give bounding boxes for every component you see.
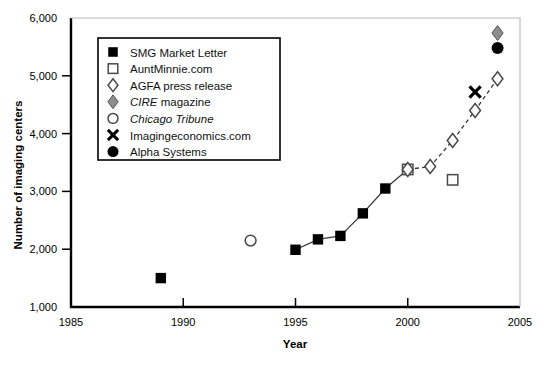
series-line (408, 79, 498, 170)
legend-label: Imagingeconomics.com (130, 130, 251, 142)
legend-marker-filled-square (108, 47, 118, 57)
series-lines (296, 79, 498, 250)
imaging-centers-scatter-chart: 1,0002,0003,0004,0005,0006,000 198519901… (0, 0, 555, 367)
y-axis-ticks (62, 76, 71, 249)
series-line (296, 169, 408, 249)
data-point-filled-square (335, 231, 345, 241)
data-point-cross-x (470, 86, 481, 97)
chart-legend: SMG Market LetterAuntMinnie.comAGFA pres… (98, 38, 280, 160)
data-point-filled-square (313, 234, 323, 244)
y-tick-label: 4,000 (29, 128, 57, 140)
x-axis-title: Year (283, 338, 308, 350)
data-point-filled-square (290, 245, 300, 255)
data-point-filled-circle (492, 42, 504, 54)
data-point-open-diamond (492, 72, 503, 86)
x-tick-label: 1990 (171, 316, 195, 328)
legend-label: AuntMinnie.com (130, 63, 212, 75)
data-point-filled-square (358, 208, 368, 218)
y-tick-label: 3,000 (29, 185, 57, 197)
y-axis-tick-labels: 1,0002,0003,0004,0005,0006,000 (29, 12, 57, 313)
data-point-open-circle (245, 235, 256, 246)
data-point-gray-diamond (492, 26, 503, 41)
legend-label: Alpha Systems (130, 146, 207, 158)
legend-marker-filled-circle (107, 146, 118, 157)
x-tick-label: 2000 (396, 316, 420, 328)
legend-marker-open-square (108, 64, 118, 74)
chart-container: 1,0002,0003,0004,0005,0006,000 198519901… (0, 0, 555, 367)
y-tick-label: 5,000 (29, 70, 57, 82)
legend-label: AGFA press release (130, 80, 232, 92)
y-axis-title: Number of imaging centers (12, 101, 24, 250)
data-point-filled-square (380, 183, 390, 193)
y-tick-label: 1,000 (29, 301, 57, 313)
legend-marker-open-circle (108, 113, 118, 123)
x-tick-label: 1995 (283, 316, 307, 328)
x-tick-label: 2005 (508, 316, 532, 328)
legend-label: CIRE magazine (130, 96, 211, 108)
y-tick-label: 6,000 (29, 12, 57, 24)
legend-label: SMG Market Letter (130, 47, 227, 59)
data-point-filled-square (156, 273, 166, 283)
x-axis-ticks (183, 298, 408, 307)
y-tick-label: 2,000 (29, 243, 57, 255)
legend-label: Chicago Tribune (130, 113, 214, 125)
data-point-open-square (447, 175, 457, 185)
x-tick-label: 1985 (59, 316, 83, 328)
x-axis-tick-labels: 19851990199520002005 (59, 316, 532, 328)
